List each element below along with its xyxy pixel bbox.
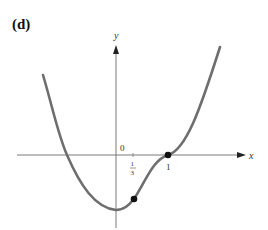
x-axis-label: x xyxy=(248,150,254,161)
tick-label-third-den: 3 xyxy=(131,169,135,177)
function-curve xyxy=(43,47,220,210)
panel-label: (d) xyxy=(12,16,30,33)
y-axis-label: y xyxy=(113,30,119,41)
x-axis-arrow-icon xyxy=(237,152,246,158)
function-graph: (d) x y 0 1 3 1 xyxy=(0,0,268,230)
origin-label: 0 xyxy=(120,143,125,153)
y-axis-arrow-icon xyxy=(113,45,119,54)
inflection-point-third xyxy=(131,196,138,203)
x-axis xyxy=(17,152,246,158)
y-axis xyxy=(113,45,119,228)
tick-label-one: 1 xyxy=(166,162,171,172)
tick-label-third-num: 1 xyxy=(131,160,135,168)
inflection-point-one xyxy=(165,152,172,159)
